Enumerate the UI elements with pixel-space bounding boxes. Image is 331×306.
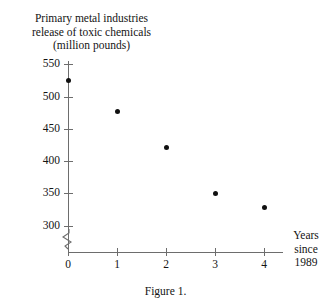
y-tick-400 [64,161,73,162]
x-tick-1 [117,248,118,256]
y-tick-450 [64,129,73,130]
x-tick-label-3: 3 [205,258,225,270]
data-point-4 [262,205,267,210]
x-axis-line [68,252,283,253]
data-point-0 [66,78,71,83]
y-tick-label-350: 350 [20,187,60,199]
figure-container: Primary metal industries release of toxi… [0,0,331,306]
y-tick-550 [64,64,73,65]
y-tick-label-450: 450 [20,123,60,135]
y-tick-500 [64,97,73,98]
y-tick-label-500: 500 [20,91,60,103]
x-tick-label-4: 4 [254,258,274,270]
y-tick-350 [64,193,73,194]
x-tick-label-1: 1 [107,258,127,270]
y-tick-label-400: 400 [20,155,60,167]
x-tick-label-2: 2 [156,258,176,270]
x-tick-4 [264,248,265,256]
figure-caption: Figure 1. [0,285,331,298]
y-axis-line [68,61,69,253]
data-point-1 [115,109,120,114]
plot-area: 550 500 450 400 350 300 0 [0,0,331,306]
y-tick-300 [64,226,73,227]
x-axis-label-line-1: Years [283,229,329,243]
y-tick-label-550: 550 [20,58,60,70]
x-tick-3 [215,248,216,256]
y-axis-break-icon [60,228,76,250]
y-tick-label-300: 300 [20,220,60,232]
x-axis-label-line-3: 1989 [283,256,329,270]
x-tick-0 [68,248,69,256]
data-point-2 [164,145,169,150]
x-tick-label-0: 0 [58,258,78,270]
x-axis-label: Years since 1989 [283,229,329,270]
x-axis-label-line-2: since [283,243,329,257]
x-tick-2 [166,248,167,256]
data-point-3 [213,191,218,196]
